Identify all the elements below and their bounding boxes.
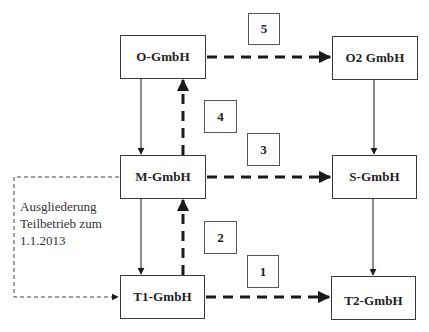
annotation-line-1: Ausgliederung: [20, 198, 102, 215]
node-o2-gmbh: O2 GmbH: [332, 36, 418, 80]
step-number: 4: [217, 109, 224, 125]
step-number: 5: [261, 21, 268, 37]
annotation-line-2: Teilbetrieb zum: [20, 215, 102, 232]
node-label: O-GmbH: [136, 49, 189, 65]
node-label: T1-GmbH: [133, 289, 191, 305]
node-label: S-GmbH: [349, 169, 399, 185]
step-label-5: 5: [248, 13, 280, 45]
node-m-gmbh: M-GmbH: [120, 155, 206, 199]
step-label-1: 1: [247, 255, 279, 288]
node-t1-gmbh: T1-GmbH: [120, 275, 205, 319]
node-s-gmbh: S-GmbH: [332, 155, 417, 199]
node-o-gmbh: O-GmbH: [120, 35, 206, 79]
step-number: 3: [260, 142, 267, 158]
node-label: T2-GmbH: [344, 293, 402, 309]
restructuring-diagram: O-GmbH M-GmbH T1-GmbH O2 GmbH S-GmbH T2-…: [0, 0, 429, 332]
node-t2-gmbh: T2-GmbH: [331, 276, 416, 320]
spinoff-annotation: Ausgliederung Teilbetrieb zum 1.1.2013: [20, 198, 102, 249]
step-label-4: 4: [204, 100, 237, 133]
step-number: 1: [260, 264, 267, 280]
step-number: 2: [217, 230, 224, 246]
step-label-3: 3: [247, 133, 280, 166]
node-label: M-GmbH: [135, 169, 190, 185]
node-label: O2 GmbH: [346, 50, 405, 66]
annotation-line-3: 1.1.2013: [20, 232, 102, 249]
step-label-2: 2: [204, 221, 237, 254]
